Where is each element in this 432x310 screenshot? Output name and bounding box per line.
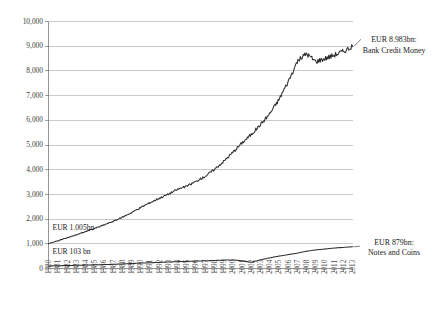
x-tick-label: 1999 [220,259,228,274]
x-tick-label: 1984 [82,259,90,274]
x-tick-label: 2010 [321,259,329,274]
x-tick-label: 2007 [294,259,302,274]
y-tick-label: 1,000 [26,239,43,248]
x-tick-label: 1990 [137,259,145,274]
chart-page: 01,0002,0003,0004,0005,0006,0007,0008,00… [0,0,432,310]
x-tick-label: 1983 [73,259,81,274]
x-tick-label: 1997 [202,259,210,274]
x-tick-label: 1992 [156,259,164,274]
x-tick-label: 1998 [211,259,219,274]
x-tick-label: 1986 [100,259,108,274]
y-tick-label: 9,000 [26,41,43,50]
x-tick-label: 2008 [303,259,311,274]
x-tick-label: 1982 [64,259,72,274]
annotation-end-bank-credit-line2: Bank Credit Money [363,46,426,55]
x-tick-label: 1985 [91,259,99,274]
y-tick-label: 6,000 [26,115,43,124]
y-tick-label: 7,000 [26,91,43,100]
x-tick-label: 2006 [285,259,293,274]
y-tick-label: 10,000 [23,17,44,26]
x-tick-label: 1981 [54,259,62,274]
x-tick-label: 2013 [349,259,357,274]
y-tick-label: 5,000 [26,140,43,149]
x-tick-label: 2000 [229,259,237,274]
x-axis-tick-labels: 1980198119821983198419851986198719881989… [45,259,357,274]
x-tick-label: 1991 [146,259,154,274]
x-tick-label: 1980 [45,259,53,274]
annotation-start-bank-credit: EUR 1.005bn [53,223,95,232]
x-tick-label: 2004 [266,259,274,274]
y-tick-label: 0 [39,264,43,273]
x-tick-label: 2005 [275,259,283,274]
y-tick-label: 2,000 [26,214,43,223]
annotation-end-notes-coins-line1: EUR 879bn: [374,238,414,247]
annotation-end-bank-credit-line1: EUR 8.983bn: [371,35,417,44]
y-tick-label: 4,000 [26,165,43,174]
x-tick-label: 2012 [340,259,348,274]
x-tick-label: 2009 [312,259,320,274]
x-tick-label: 1988 [119,259,127,274]
y-tick-label: 8,000 [26,66,43,75]
x-tick-label: 1987 [110,259,118,274]
x-tick-label: 1989 [128,259,136,274]
annotation-end-notes-coins-line2: Notes and Coins [368,248,420,257]
x-tick-label: 2011 [331,260,339,275]
y-tick-label: 3,000 [26,190,43,199]
annotation-start-notes-coins: EUR 103 bn [53,247,91,256]
x-tick-label: 2003 [257,259,265,274]
money-supply-line-chart: 01,0002,0003,0004,0005,0006,0007,0008,00… [0,0,432,310]
